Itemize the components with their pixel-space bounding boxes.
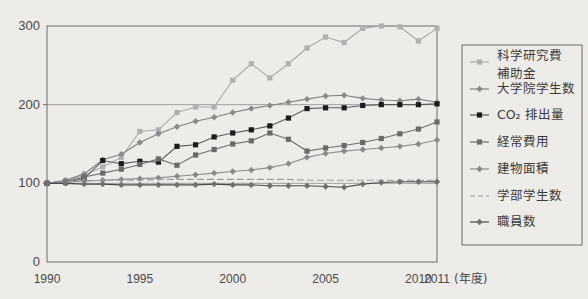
data-point-marker <box>230 78 235 83</box>
legend-item-label[interactable]: 科学研究費 <box>497 48 562 63</box>
y-tick-label: 200 <box>18 97 40 112</box>
data-point-marker <box>174 163 179 168</box>
legend-item-label-line2[interactable]: 補助金 <box>497 66 536 81</box>
data-point-marker <box>379 23 384 28</box>
data-point-marker <box>137 162 142 167</box>
x-tick-label: 2005 <box>312 272 339 286</box>
y-tick-label: 100 <box>18 175 40 190</box>
data-point-marker <box>137 129 142 134</box>
data-point-marker <box>212 147 217 152</box>
data-point-marker <box>100 158 105 163</box>
data-point-marker <box>434 101 439 106</box>
data-point-marker <box>342 40 347 45</box>
data-point-marker <box>323 145 328 150</box>
data-point-marker <box>304 45 309 50</box>
legend-item-label[interactable]: 職員数 <box>497 214 536 229</box>
data-point-marker <box>212 134 217 139</box>
data-point-marker <box>286 115 291 120</box>
x-axis-unit-label: (年度) <box>454 271 487 286</box>
data-point-marker <box>267 75 272 80</box>
legend-item-label[interactable]: 建物面積 <box>497 161 549 176</box>
data-point-marker <box>100 164 105 169</box>
data-point-marker <box>323 105 328 110</box>
data-point-marker <box>379 102 384 107</box>
data-point-marker <box>212 104 217 109</box>
x-tick-label: 1995 <box>127 272 154 286</box>
data-point-marker <box>174 144 179 149</box>
data-point-marker <box>249 127 254 132</box>
data-point-marker <box>304 148 309 153</box>
data-point-marker <box>416 102 421 107</box>
chart-container: 0100200300 199019952000200520102011(年度) … <box>0 0 588 299</box>
data-point-marker <box>477 112 482 117</box>
data-point-marker <box>397 131 402 136</box>
legend-item-label[interactable]: 大学院学生数 <box>497 81 575 96</box>
data-point-marker <box>434 119 439 124</box>
data-point-marker <box>342 143 347 148</box>
data-point-marker <box>416 38 421 43</box>
x-tick-label: 1990 <box>34 272 61 286</box>
y-tick-label: 0 <box>33 254 40 269</box>
data-point-marker <box>193 104 198 109</box>
data-point-marker <box>249 138 254 143</box>
data-point-marker <box>342 105 347 110</box>
legend-item-label[interactable]: 経常費用 <box>497 134 549 149</box>
legend-item-label[interactable]: 学部学生数 <box>497 188 562 203</box>
data-point-marker <box>156 156 161 161</box>
data-point-marker <box>416 126 421 131</box>
data-point-marker <box>397 24 402 29</box>
x-tick-label: 2000 <box>219 272 246 286</box>
data-point-marker <box>323 34 328 39</box>
data-point-marker <box>267 123 272 128</box>
data-point-marker <box>119 161 124 166</box>
data-point-marker <box>100 171 105 176</box>
data-point-marker <box>379 136 384 141</box>
x-tick-label: 2011 <box>424 272 450 286</box>
data-point-marker <box>267 130 272 135</box>
legend-item-label[interactable]: CO₂ 排出量 <box>497 107 564 122</box>
data-point-marker <box>286 137 291 142</box>
y-tick-label: 300 <box>18 18 40 33</box>
data-point-marker <box>360 103 365 108</box>
data-point-marker <box>174 110 179 115</box>
data-point-marker <box>360 26 365 31</box>
data-point-marker <box>193 142 198 147</box>
data-point-marker <box>230 141 235 146</box>
line-chart: 0100200300 199019952000200520102011(年度) … <box>0 0 588 299</box>
data-point-marker <box>304 106 309 111</box>
data-point-marker <box>193 152 198 157</box>
data-point-marker <box>477 139 482 144</box>
data-point-marker <box>360 140 365 145</box>
data-point-marker <box>249 61 254 66</box>
data-point-marker <box>119 167 124 172</box>
data-point-marker <box>434 26 439 31</box>
data-point-marker <box>477 59 482 64</box>
data-point-marker <box>230 130 235 135</box>
data-point-marker <box>286 61 291 66</box>
data-point-marker <box>397 102 402 107</box>
